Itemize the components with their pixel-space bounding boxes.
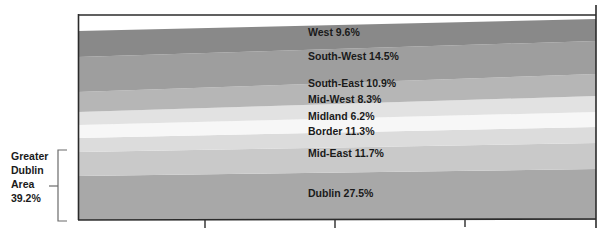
band-label-border: Border 11.3% — [308, 125, 375, 137]
band-label-mid-west: Mid-West 8.3% — [308, 93, 382, 105]
band-label-west: West 9.6% — [308, 26, 360, 38]
stacked-area-chart: West 9.6% South-West 14.5% South-East 10… — [0, 0, 608, 235]
greater-dublin-bracket — [58, 150, 67, 221]
group-label-line-1: Greater — [11, 150, 48, 162]
band-label-dublin: Dublin 27.5% — [308, 187, 374, 199]
band-label-mid-east: Mid-East 11.7% — [308, 147, 385, 159]
group-label-line-4: 39.2% — [11, 192, 41, 204]
chart-canvas: West 9.6% South-West 14.5% South-East 10… — [0, 0, 608, 235]
band-label-midland: Midland 6.2% — [308, 110, 375, 122]
group-label-line-2: Dublin — [11, 164, 44, 176]
axis-bottom — [78, 219, 596, 220]
band-label-south-west: South-West 14.5% — [308, 50, 399, 62]
band-label-south-east: South-East 10.9% — [308, 77, 397, 89]
group-label-line-3: Area — [11, 178, 35, 190]
